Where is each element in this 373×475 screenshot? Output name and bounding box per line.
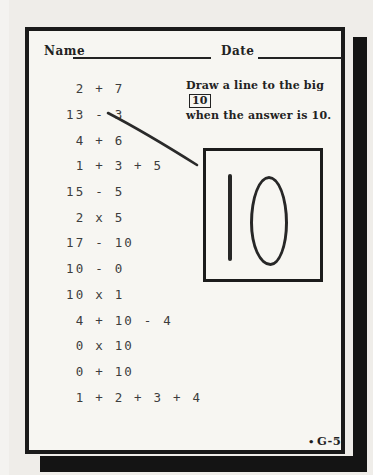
instruction-line1: Draw a line to the big [186,79,324,92]
worksheet-page: Name Date Draw a line to the big10 when … [25,27,345,454]
problem-expression: 1 + 2 + 3 + 4 [66,384,202,410]
problem-expression: 13 - 3 [66,102,202,128]
problem-expression: 4 + 6 [66,127,202,153]
problem-expression: 10 - 0 [66,256,202,282]
name-field-line [73,57,211,59]
problem-expression: 0 + 10 [66,359,202,385]
problem-expression: 15 - 5 [66,179,202,205]
problem-expression: 10 x 1 [66,282,202,308]
page-code: •G-5 [308,434,341,448]
frame-shadow-right [353,37,367,472]
problem-expression: 2 + 7 [66,76,202,102]
problem-list: 2 + 7 13 - 3 4 + 6 1 + 3 + 5 15 - 5 2 x … [66,76,202,410]
frame-shadow-bottom [40,456,367,472]
instruction-text: Draw a line to the big10 when the answer… [186,78,346,123]
problem-expression: 17 - 10 [66,230,202,256]
problem-expression: 1 + 3 + 5 [66,153,202,179]
worksheet-scan: Name Date Draw a line to the big10 when … [0,0,373,475]
big-ten-box [203,148,323,282]
bullet-icon: • [308,436,315,447]
page-code-label: G-5 [317,434,341,448]
digit-one-stroke [228,174,232,261]
name-label: Name [44,44,85,58]
problem-expression: 0 x 10 [66,333,202,359]
problem-expression: 2 x 5 [66,204,202,230]
date-label: Date [221,44,254,58]
problem-expression: 4 + 10 - 4 [66,307,202,333]
digit-zero-oval [250,176,288,266]
date-field-line [258,57,342,59]
instruction-line2: when the answer is 10. [186,109,331,122]
scan-edge [0,0,9,475]
